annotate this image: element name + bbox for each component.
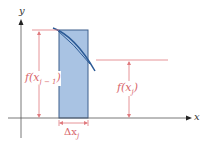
f-prev-arrow-down-icon — [37, 114, 41, 118]
delta-x-label: Δxj — [64, 126, 79, 140]
f-prev-text: f(x — [25, 71, 40, 84]
f-curr-label: f(xj) — [117, 81, 138, 96]
y-axis-arrow-icon — [19, 19, 24, 25]
f-curr-close: ) — [134, 81, 138, 94]
delta-subscript: j — [77, 132, 79, 140]
x-axis-label: x — [194, 111, 200, 122]
f-prev-label: f(xj − 1) — [25, 71, 61, 86]
x-axis-arrow-icon — [186, 116, 192, 121]
f-prev-close: ) — [57, 71, 61, 84]
f-curr-arrow-up-icon — [127, 61, 131, 65]
approx-rectangle — [59, 30, 88, 118]
f-prev-arrow-up-icon — [37, 31, 41, 35]
delta-text: Δx — [64, 126, 77, 137]
f-prev-subscript: j − 1 — [40, 78, 57, 86]
delta-arrow-left-icon — [59, 121, 63, 125]
f-curr-text: f(x — [117, 81, 132, 94]
delta-arrow-right-icon — [84, 121, 88, 125]
f-curr-arrow-down-icon — [127, 114, 131, 118]
y-axis-label: y — [19, 5, 25, 16]
